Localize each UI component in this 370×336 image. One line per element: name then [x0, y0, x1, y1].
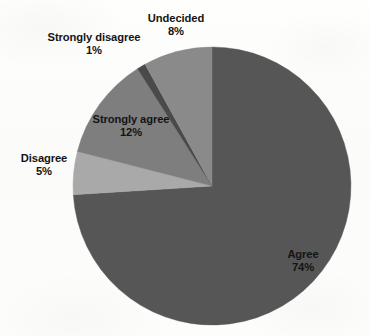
pie-label-strongly-disagree-name: Strongly disagree: [26, 31, 162, 44]
pie-label-strongly-agree-name: Strongly agree: [76, 113, 186, 126]
pie-label-strongly-disagree: Strongly disagree 1%: [26, 31, 162, 58]
pie-label-agree-name: Agree: [272, 248, 334, 261]
pie-label-agree-value: 74%: [272, 261, 334, 274]
pie-label-agree: Agree 74%: [272, 248, 334, 275]
pie-label-strongly-agree: Strongly agree 12%: [76, 113, 186, 140]
pie-label-undecided-name: Undecided: [128, 12, 224, 25]
pie-label-disagree: Disagree 5%: [2, 152, 86, 179]
pie-label-disagree-name: Disagree: [2, 152, 86, 165]
pie-chart: Undecided 8% Strongly disagree 1% Strong…: [0, 0, 370, 336]
pie-label-disagree-value: 5%: [2, 165, 86, 178]
pie-label-strongly-agree-value: 12%: [76, 126, 186, 139]
pie-label-strongly-disagree-value: 1%: [26, 44, 162, 57]
pie-slice-group: [73, 47, 351, 325]
